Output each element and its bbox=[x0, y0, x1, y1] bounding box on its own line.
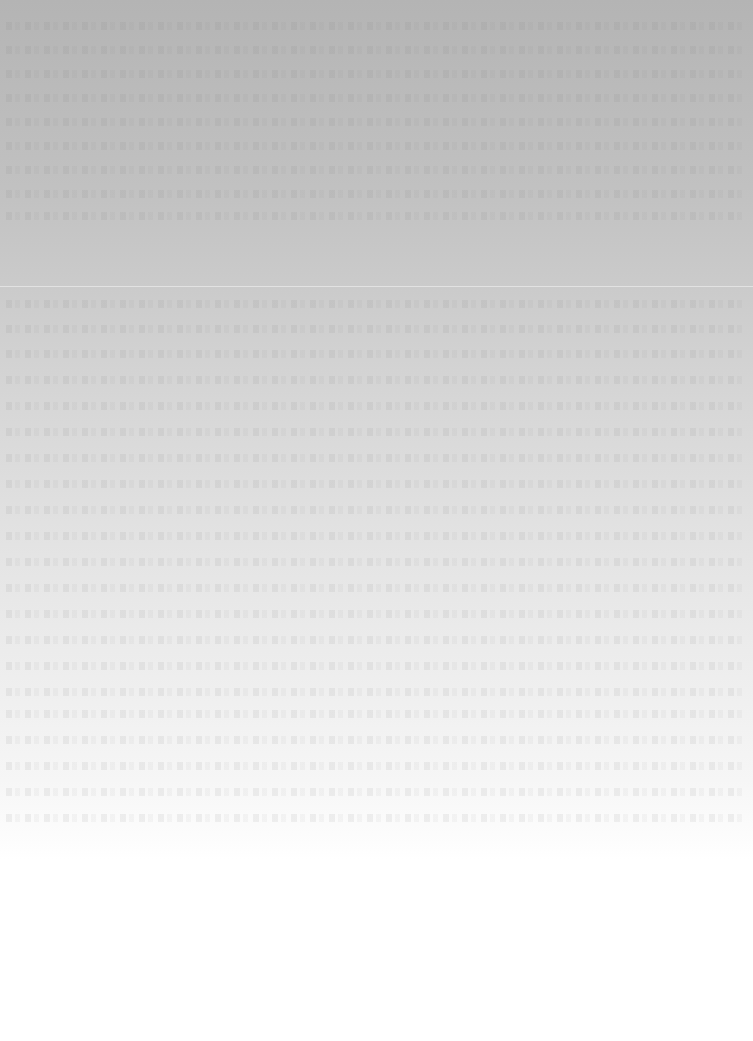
text-line bbox=[6, 94, 747, 102]
text-line bbox=[6, 46, 747, 54]
text-line bbox=[6, 662, 747, 670]
horizontal-divider bbox=[0, 286, 753, 287]
text-line bbox=[6, 350, 747, 358]
text-line bbox=[6, 325, 747, 333]
text-line bbox=[6, 300, 747, 308]
text-line bbox=[6, 22, 747, 30]
text-line bbox=[6, 710, 747, 718]
text-line bbox=[6, 736, 747, 744]
text-line bbox=[6, 688, 747, 696]
text-line bbox=[6, 190, 747, 198]
scanned-page bbox=[0, 0, 753, 1041]
text-line bbox=[6, 584, 747, 592]
text-line bbox=[6, 402, 747, 410]
text-line bbox=[6, 610, 747, 618]
text-line bbox=[6, 428, 747, 436]
text-line bbox=[6, 762, 747, 770]
text-line bbox=[6, 70, 747, 78]
text-line bbox=[6, 506, 747, 514]
text-line bbox=[6, 480, 747, 488]
text-line bbox=[6, 142, 747, 150]
text-line bbox=[6, 454, 747, 462]
text-line bbox=[6, 558, 747, 566]
text-line bbox=[6, 376, 747, 384]
text-line bbox=[6, 212, 747, 220]
text-line bbox=[6, 118, 747, 126]
text-line bbox=[6, 636, 747, 644]
text-line bbox=[6, 788, 747, 796]
text-line bbox=[6, 814, 747, 822]
text-line bbox=[6, 532, 747, 540]
text-line bbox=[6, 166, 747, 174]
